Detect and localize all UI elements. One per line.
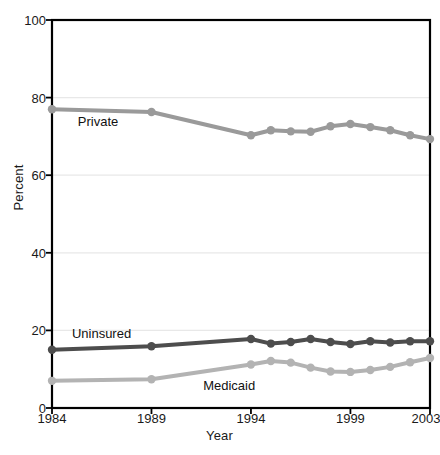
x-tick-label: 1984 [38,411,67,426]
data-point [287,338,295,346]
x-tick-label: 1999 [336,411,365,426]
data-point [267,126,275,134]
data-point [366,337,374,345]
data-point [406,131,414,139]
data-point [247,131,255,139]
data-point [366,123,374,131]
data-point [147,108,155,116]
x-tick-label: 2003 [412,411,440,426]
data-point [247,360,255,368]
data-point [48,105,56,113]
data-point [287,358,295,366]
data-point [306,363,314,371]
data-point [406,358,414,366]
data-point [287,127,295,135]
data-point [426,337,434,345]
data-point [48,377,56,385]
data-point [267,339,275,347]
data-series-layer [48,105,434,385]
data-point [366,366,374,374]
series-label-private: Private [78,114,118,129]
data-point [326,367,334,375]
data-point [48,346,56,354]
x-tick-label: 1989 [137,411,166,426]
data-point [306,128,314,136]
data-point [346,340,354,348]
data-point [267,357,275,365]
data-point [346,368,354,376]
data-point [306,335,314,343]
data-point [247,335,255,343]
data-point [406,337,414,345]
data-point [147,342,155,350]
x-tick-label: 1994 [237,411,266,426]
series-label-uninsured: Uninsured [72,326,131,341]
series-label-medicaid: Medicaid [203,378,255,393]
data-point [386,126,394,134]
data-point [326,122,334,130]
data-point [386,363,394,371]
data-point [426,135,434,143]
x-axis-title: Year [0,428,439,443]
data-point [147,375,155,383]
data-point [386,338,394,346]
data-point [426,354,434,362]
data-point [346,120,354,128]
data-point [326,338,334,346]
